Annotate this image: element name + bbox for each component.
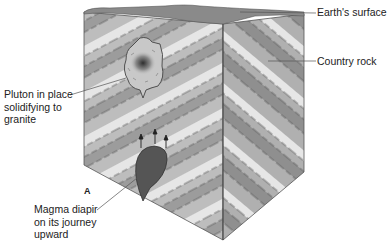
label-earths-surface: Earth's surface — [317, 6, 387, 19]
panel-label: A — [84, 186, 91, 196]
right-face — [223, 14, 304, 240]
label-diapir: Magma diapir on its journey upward — [34, 203, 98, 241]
label-pluton: Pluton in place solidifying to granite — [4, 88, 73, 126]
label-country-rock: Country rock — [317, 55, 377, 68]
